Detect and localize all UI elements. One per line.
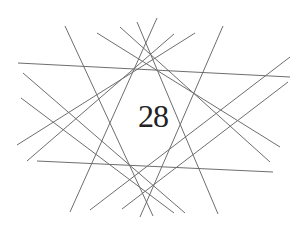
line-segment-2 — [37, 161, 273, 172]
line-segment-6 — [120, 27, 270, 162]
center-number-label: 28 — [133, 101, 173, 131]
diagram-canvas: 28 — [0, 0, 307, 231]
line-segment-1 — [18, 63, 290, 77]
